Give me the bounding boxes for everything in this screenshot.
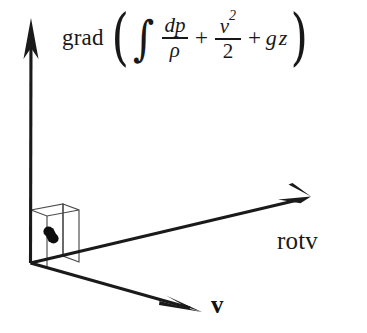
rotv-axis-arrowhead-upper-barb <box>289 183 312 197</box>
surface-element-top-edge <box>31 210 79 216</box>
double-dot-marker <box>43 226 58 243</box>
diagram-canvas <box>0 0 367 333</box>
v-axis-arrow <box>31 263 203 312</box>
grad-axis-shaft <box>31 33 32 263</box>
rotv-axis-shaft <box>31 200 301 264</box>
v-axis-shaft <box>31 263 191 308</box>
grad-axis-arrow <box>24 18 39 263</box>
rotv-axis-arrow <box>31 183 312 263</box>
